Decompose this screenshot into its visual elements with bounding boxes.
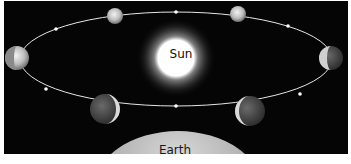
earth-label: Earth xyxy=(150,143,200,157)
planet-bottom-left xyxy=(90,94,120,124)
orbit-arrow-icon xyxy=(174,104,178,108)
planet-left xyxy=(5,46,29,70)
orbit-arrow-icon xyxy=(54,27,58,31)
orbit-arrow-icon xyxy=(174,10,178,14)
planet-top-left xyxy=(107,8,123,24)
orbit-arrow-icon xyxy=(286,24,290,28)
planet-bottom-right xyxy=(235,96,265,126)
sun-label: Sun xyxy=(156,47,206,61)
planet-top-right xyxy=(230,6,246,22)
planet-right xyxy=(319,46,343,70)
diagram-panel: Sun xyxy=(4,1,348,154)
orbit-arrow-icon xyxy=(298,92,302,96)
venus-phases-diagram xyxy=(4,1,348,154)
orbit-arrow-icon xyxy=(44,87,48,91)
